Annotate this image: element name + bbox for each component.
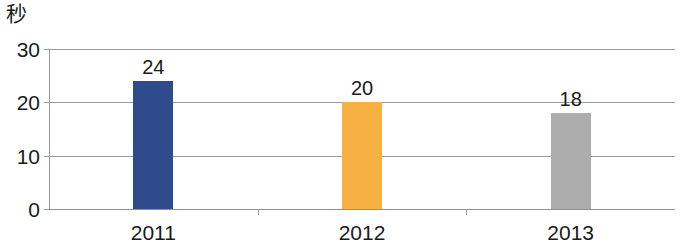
bar-2011: 24	[133, 81, 173, 209]
bar-chart: 秒 0102030242018 201120122013	[0, 0, 684, 243]
y-axis-tick-label: 30	[17, 39, 40, 60]
y-axis-tick-label: 0	[28, 199, 40, 220]
x-axis: 201120122013	[49, 209, 675, 243]
y-axis-tick	[44, 156, 49, 157]
y-axis-tick-label: 10	[17, 145, 40, 166]
x-axis-label-2011: 2011	[131, 221, 176, 243]
bar-2013: 18	[551, 113, 591, 209]
y-axis-unit-label: 秒	[6, 2, 27, 26]
gridline	[49, 49, 675, 50]
x-axis-tick	[466, 209, 467, 215]
y-axis-line	[49, 49, 50, 210]
y-axis-tick	[44, 102, 49, 103]
y-axis-tick-label: 20	[17, 92, 40, 113]
bar-value-label: 24	[142, 56, 164, 78]
y-axis-tick	[44, 49, 49, 50]
bar-value-label: 18	[560, 88, 582, 110]
bar-2012: 20	[342, 102, 382, 209]
x-axis-label-2012: 2012	[339, 221, 386, 243]
bar-value-label: 20	[351, 77, 373, 99]
plot-area: 0102030242018	[49, 49, 675, 209]
x-axis-label-2013: 2013	[547, 221, 594, 243]
x-axis-tick	[258, 209, 259, 215]
